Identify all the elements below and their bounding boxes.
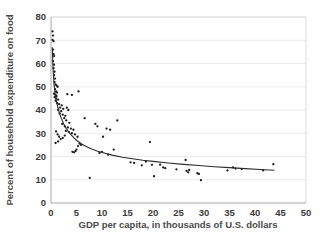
x-tick-20: 20: [148, 207, 159, 218]
data-point: [159, 163, 161, 165]
x-tick-30: 30: [199, 207, 210, 218]
y-axis-title: Percent of household expenditure on food: [4, 14, 15, 205]
x-tick-50: 50: [301, 207, 312, 218]
y-tick-40: 40: [35, 104, 46, 115]
x-tick-0: 0: [48, 207, 53, 218]
data-point: [77, 145, 79, 147]
data-point: [162, 166, 164, 168]
data-point: [63, 117, 65, 119]
data-point: [59, 107, 61, 109]
y-tick-0: 0: [41, 197, 46, 208]
data-point: [58, 103, 60, 105]
data-point: [64, 115, 66, 117]
data-point: [68, 122, 70, 124]
data-point: [77, 90, 79, 92]
data-point: [67, 126, 69, 128]
data-point: [62, 108, 64, 110]
data-point: [129, 161, 131, 163]
data-point: [62, 137, 64, 139]
data-point: [72, 129, 74, 131]
data-point: [56, 91, 58, 93]
data-point: [187, 171, 189, 173]
data-point: [66, 107, 68, 109]
y-tick-50: 50: [35, 81, 46, 92]
data-point: [188, 169, 190, 171]
data-point: [53, 55, 55, 57]
data-point: [64, 134, 66, 136]
x-tick-40: 40: [250, 207, 261, 218]
data-point: [109, 129, 111, 131]
data-points: [51, 30, 274, 181]
data-point: [84, 117, 86, 119]
data-point: [184, 159, 186, 161]
data-point: [151, 164, 153, 166]
x-tick-5: 5: [74, 207, 80, 218]
data-point: [133, 162, 135, 164]
data-point: [74, 133, 76, 135]
data-point: [60, 138, 62, 140]
gridlines: [51, 17, 306, 180]
data-point: [67, 109, 69, 111]
x-tick-10: 10: [97, 207, 108, 218]
x-tick-35: 35: [224, 207, 235, 218]
data-point: [70, 127, 72, 129]
data-point: [65, 119, 67, 121]
data-point: [153, 175, 155, 177]
data-point: [94, 123, 96, 125]
data-point: [66, 93, 68, 95]
data-point: [71, 94, 73, 96]
data-point: [198, 173, 200, 175]
data-point: [116, 119, 118, 121]
data-point: [65, 130, 67, 132]
x-axis-tick-labels: 05101520253035404550: [48, 207, 311, 218]
y-tick-60: 60: [35, 58, 46, 69]
data-point: [75, 148, 77, 150]
y-tick-10: 10: [35, 174, 46, 185]
data-point: [149, 141, 151, 143]
data-point: [141, 164, 143, 166]
data-point: [57, 140, 59, 142]
scatter-plot: 05101520253035404550 01020304050607080 G…: [0, 0, 331, 240]
data-point: [102, 136, 104, 138]
data-point: [113, 148, 115, 150]
data-point: [200, 179, 202, 181]
data-point: [164, 167, 166, 169]
data-point: [175, 168, 177, 170]
data-point: [51, 30, 53, 32]
chart-container: 05101520253035404550 01020304050607080 G…: [0, 0, 331, 240]
data-point: [52, 34, 54, 36]
data-point: [226, 169, 228, 171]
data-point: [57, 98, 59, 100]
data-point: [272, 163, 274, 165]
x-tick-45: 45: [275, 207, 286, 218]
data-point: [56, 133, 58, 135]
data-point: [54, 142, 56, 144]
y-tick-30: 30: [35, 128, 46, 139]
x-tick-15: 15: [122, 207, 133, 218]
y-tick-70: 70: [35, 35, 46, 46]
data-point: [96, 125, 98, 127]
data-point: [62, 114, 64, 116]
data-point: [76, 136, 78, 138]
data-point: [61, 104, 63, 106]
data-point: [56, 86, 58, 88]
data-point: [105, 127, 107, 129]
data-point: [60, 110, 62, 112]
data-point: [89, 177, 91, 179]
data-point: [58, 136, 60, 138]
data-point: [52, 40, 54, 42]
y-tick-20: 20: [35, 151, 46, 162]
y-axis-tick-labels: 01020304050607080: [35, 11, 46, 208]
data-point: [55, 130, 57, 132]
y-tick-80: 80: [35, 11, 46, 22]
fit-curve: [52, 47, 274, 170]
x-axis-title: GDP per capita, in thousands of U.S. dol…: [79, 219, 278, 230]
x-tick-25: 25: [173, 207, 184, 218]
trend-curve: [52, 47, 274, 170]
